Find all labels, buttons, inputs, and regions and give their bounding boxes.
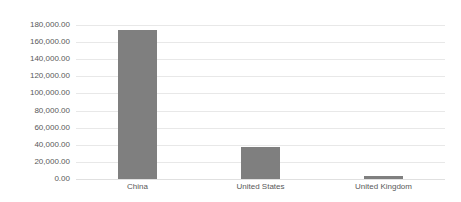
y-tick-label: 180,000.00	[0, 20, 70, 29]
bar-united-states[interactable]	[241, 147, 280, 179]
x-tick-label: United States	[199, 182, 322, 192]
x-tick-label: United Kingdom	[322, 182, 445, 192]
y-tick-label: 140,000.00	[0, 54, 70, 63]
y-tick-label: 100,000.00	[0, 88, 70, 97]
y-tick-label: 160,000.00	[0, 37, 70, 46]
bar-united-kingdom[interactable]	[364, 176, 403, 179]
y-tick-label: 120,000.00	[0, 71, 70, 80]
y-tick-label: 60,000.00	[0, 123, 70, 132]
x-tick-label: China	[76, 182, 199, 192]
bars-layer	[76, 25, 445, 179]
y-tick-label: 80,000.00	[0, 106, 70, 115]
bar-chart: 0.0020,000.0040,000.0060,000.0080,000.00…	[0, 0, 461, 202]
y-axis: 0.0020,000.0040,000.0060,000.0080,000.00…	[0, 0, 70, 202]
gridline	[76, 179, 445, 180]
x-axis: ChinaUnited StatesUnited Kingdom	[76, 182, 445, 198]
y-tick-label: 40,000.00	[0, 140, 70, 149]
bar-china[interactable]	[118, 30, 157, 179]
y-tick-label: 20,000.00	[0, 157, 70, 166]
y-tick-label: 0.00	[0, 174, 70, 183]
